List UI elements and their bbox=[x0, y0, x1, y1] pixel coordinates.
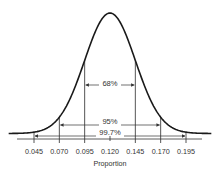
x-tick-label: 0.145 bbox=[126, 147, 144, 156]
normal-curve bbox=[9, 13, 212, 133]
x-axis-title: Proportion bbox=[93, 159, 126, 168]
x-tick-label: 0.120 bbox=[101, 147, 119, 156]
interval-label: 99.7% bbox=[99, 128, 121, 137]
x-tick-label: 0.195 bbox=[177, 147, 195, 156]
interval-label: 95% bbox=[102, 117, 117, 126]
x-tick-label: 0.045 bbox=[25, 147, 43, 156]
x-tick-label: 0.095 bbox=[76, 147, 94, 156]
x-tick-label: 0.070 bbox=[50, 147, 68, 156]
interval-label: 68% bbox=[102, 79, 117, 88]
normal-distribution-chart: 68%95%99.7% 0.0450.0700.0950.1200.1450.1… bbox=[0, 0, 212, 178]
x-tick-label: 0.170 bbox=[152, 147, 170, 156]
